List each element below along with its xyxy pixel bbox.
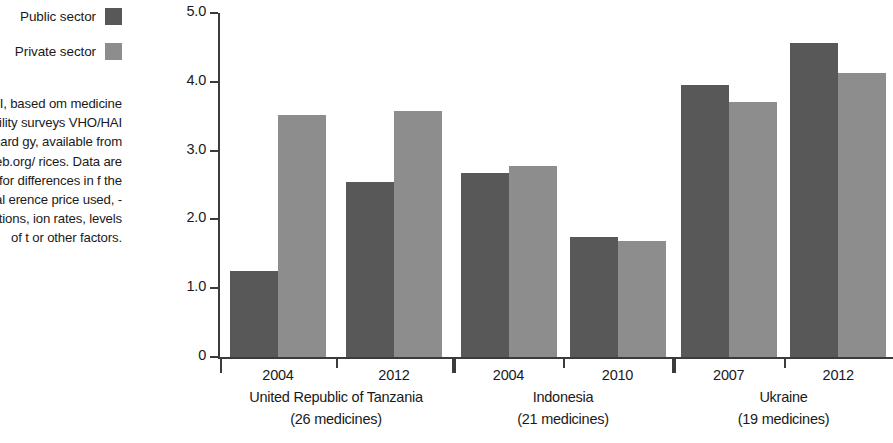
square-swatch-icon-private xyxy=(105,43,122,60)
category-axis: 20042012United Republic of Tanzania(26 m… xyxy=(218,359,893,443)
bar-public xyxy=(790,43,838,357)
bar-public xyxy=(230,271,278,357)
x-axis-medicines-count-label: (19 medicines) xyxy=(674,411,893,427)
legend-label-public-sector: Public sector xyxy=(20,9,96,24)
x-axis-medicines-count-label: (21 medicines) xyxy=(454,411,672,427)
x-axis-country-label: United Republic of Tanzania xyxy=(220,389,452,405)
source-note: WHO/HAI, based om medicine price vailabi… xyxy=(0,94,122,248)
bar-public xyxy=(681,85,729,357)
bar-private xyxy=(278,115,326,357)
x-axis-year-label: 2007 xyxy=(674,367,784,383)
square-swatch-icon-public xyxy=(105,8,122,25)
x-axis-year-label: 2012 xyxy=(784,367,893,383)
x-axis-medicines-count-label: (26 medicines) xyxy=(220,411,452,427)
category-group-ukraine: 20072012Ukraine(19 medicines) xyxy=(674,359,893,443)
legend-item-private-sector: Private sector xyxy=(0,41,170,61)
category-group-united-republic-of-tanzania: 20042012United Republic of Tanzania(26 m… xyxy=(220,359,452,443)
bar-private xyxy=(729,102,777,357)
bar-public xyxy=(346,182,394,357)
legend-item-public-sector: Public sector xyxy=(0,6,170,26)
bars-layer xyxy=(196,0,893,359)
bar-public xyxy=(570,237,618,357)
group-year-labels: 20042012 xyxy=(220,367,452,383)
group-year-labels: 20042010 xyxy=(454,367,672,383)
bar-private xyxy=(509,166,557,357)
x-axis-year-label: 2004 xyxy=(454,367,563,383)
bar-public xyxy=(461,173,509,357)
x-axis-country-label: Indonesia xyxy=(454,389,672,405)
plot-area: 01.02.03.04.05.0 20042012United Republic… xyxy=(196,0,893,443)
bar-private xyxy=(618,241,666,357)
x-axis-year-label: 2012 xyxy=(336,367,452,383)
x-axis-year-label: 2004 xyxy=(220,367,336,383)
bar-private xyxy=(394,111,442,357)
group-year-labels: 20072012 xyxy=(674,367,893,383)
x-axis-year-label: 2010 xyxy=(563,367,672,383)
x-axis-country-label: Ukraine xyxy=(674,389,893,405)
chart-page: Public sector Private sector WHO/HAI, ba… xyxy=(0,0,893,443)
category-group-indonesia: 20042010Indonesia(21 medicines) xyxy=(454,359,672,443)
legend-label-private-sector: Private sector xyxy=(15,44,96,59)
bar-private xyxy=(838,73,886,357)
